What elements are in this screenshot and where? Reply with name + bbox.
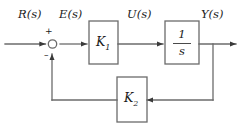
summing-junction-plus-sign: + (45, 27, 53, 36)
gain2-symbol: K (124, 90, 133, 105)
integrator-numerator: 1 (173, 29, 191, 42)
summing-junction-minus-sign: – (44, 51, 49, 60)
block-label-gain1: K1 (96, 36, 110, 52)
signal-label-input: R(s) (18, 9, 42, 21)
gain2-subscript: 2 (133, 99, 138, 108)
block-label-gain2: K2 (124, 92, 138, 108)
gain1-subscript: 1 (105, 43, 110, 52)
block-diagram: R(s) E(s) U(s) Y(s) + – K1 1 s K2 (0, 0, 243, 126)
signal-label-control: U(s) (127, 9, 152, 21)
summing-junction-circle (48, 40, 56, 48)
integrator-denominator: s (173, 45, 191, 58)
signal-label-error: E(s) (59, 9, 82, 21)
gain1-symbol: K (96, 34, 105, 49)
signal-label-output: Y(s) (201, 9, 223, 21)
block-label-integrator: 1 s (173, 29, 191, 57)
